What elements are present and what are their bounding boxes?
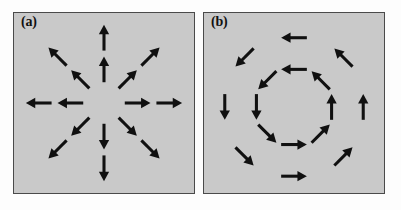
vector-field-a — [14, 13, 194, 193]
arrow-shaft — [235, 147, 248, 160]
vector-field-b — [204, 13, 384, 193]
arrow-shaft — [317, 77, 330, 90]
arrow-right — [281, 139, 307, 149]
arrow-shaft — [54, 140, 67, 153]
arrow-down — [251, 94, 261, 120]
arrow-up-left — [312, 71, 330, 89]
arrow-shaft — [312, 130, 325, 143]
arrow-shaft — [77, 118, 90, 131]
figure-root: (a) (b) — [0, 0, 401, 210]
arrow-head — [141, 98, 150, 108]
arrow-down-left — [48, 140, 66, 158]
arrow-head — [220, 110, 230, 119]
arrow-down-left — [235, 48, 253, 66]
arrow-shaft — [340, 54, 353, 67]
arrow-left — [281, 33, 307, 43]
arrow-down-right — [141, 140, 159, 158]
arrow-head — [281, 33, 290, 43]
arrow-up — [326, 94, 336, 120]
arrow-head — [99, 25, 109, 34]
arrow-head — [173, 98, 182, 108]
arrow-right — [281, 171, 307, 181]
arrow-up-right — [141, 47, 159, 65]
arrow-down-left — [71, 118, 89, 136]
arrow-shaft — [264, 71, 277, 84]
arrow-left — [26, 98, 52, 108]
arrow-shaft — [141, 53, 154, 66]
arrow-down-left — [258, 71, 276, 89]
arrow-right — [156, 98, 182, 108]
arrow-up — [99, 57, 109, 83]
arrow-down — [220, 94, 230, 120]
arrow-left — [58, 98, 84, 108]
arrow-up-left — [48, 47, 66, 65]
panel-a-label: (a) — [21, 15, 37, 29]
arrow-shaft — [119, 76, 132, 89]
arrow-up-left — [71, 70, 89, 88]
arrow-down-right — [258, 125, 276, 143]
arrow-down-right — [119, 118, 137, 136]
arrow-head — [26, 98, 35, 108]
arrow-head — [58, 98, 67, 108]
arrow-up-left — [334, 48, 352, 66]
arrow-down-right — [235, 147, 253, 165]
arrow-shaft — [334, 153, 347, 166]
arrow-shaft — [54, 53, 67, 66]
arrow-left — [281, 64, 307, 74]
arrow-head — [99, 140, 109, 149]
arrow-up-right — [312, 125, 330, 143]
arrow-up-right — [334, 147, 352, 165]
arrow-shaft — [241, 48, 254, 61]
arrow-head — [281, 64, 290, 74]
arrow-head — [297, 139, 306, 149]
arrow-head — [99, 172, 109, 181]
arrow-up-right — [119, 70, 137, 88]
arrow-up — [358, 94, 368, 120]
panel-b: (b) — [203, 12, 385, 194]
arrow-shaft — [119, 118, 132, 131]
arrow-shaft — [141, 140, 154, 153]
arrow-shaft — [258, 125, 271, 138]
arrow-shaft — [77, 76, 90, 89]
arrow-up — [99, 25, 109, 51]
arrow-head — [326, 94, 336, 103]
panel-a: (a) — [13, 12, 195, 194]
arrow-head — [251, 110, 261, 119]
arrow-head — [358, 94, 368, 103]
arrow-head — [297, 171, 306, 181]
arrow-down — [99, 124, 109, 150]
arrow-right — [125, 98, 151, 108]
arrow-down — [99, 155, 109, 181]
panel-b-label: (b) — [211, 15, 228, 29]
arrow-head — [99, 57, 109, 66]
